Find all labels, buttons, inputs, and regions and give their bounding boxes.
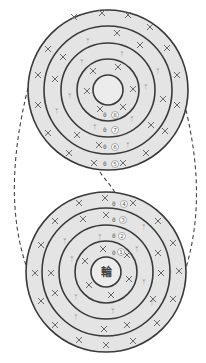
svg-text:7: 7 xyxy=(113,127,117,133)
svg-text:0: 0 xyxy=(112,216,116,223)
svg-text:ᛉ: ᛉ xyxy=(74,293,78,300)
svg-text:0: 0 xyxy=(103,111,107,118)
svg-text:0: 0 xyxy=(103,160,107,167)
svg-text:ᛉ: ᛉ xyxy=(86,37,90,44)
svg-text:ᛉ: ᛉ xyxy=(68,92,72,99)
svg-text:ᛉ: ᛉ xyxy=(111,307,115,314)
svg-text:ᛉ: ᛉ xyxy=(74,313,78,320)
svg-text:3: 3 xyxy=(121,217,125,223)
svg-text:ᛉ: ᛉ xyxy=(70,255,74,262)
svg-text:ᛉ: ᛉ xyxy=(126,141,130,148)
svg-text:8: 8 xyxy=(113,112,117,118)
svg-text:ᛉ: ᛉ xyxy=(93,123,97,130)
svg-text:4: 4 xyxy=(122,201,126,207)
svg-text:ᛉ: ᛉ xyxy=(120,50,124,57)
svg-text:ᛉ: ᛉ xyxy=(98,233,102,240)
crochet-diagram: ᛉ ᛉ ᛉ ᛉ ᛉ ᛉ ᛉ ᛉ ᛉ ᛉ 0 8 0 7 0 6 0 5 xyxy=(0,0,206,363)
svg-text:2: 2 xyxy=(120,233,124,239)
svg-text:ᛉ: ᛉ xyxy=(150,299,154,306)
svg-text:5: 5 xyxy=(113,161,117,167)
svg-text:ᛉ: ᛉ xyxy=(135,245,139,252)
svg-text:ᛉ: ᛉ xyxy=(80,58,84,65)
svg-text:6: 6 xyxy=(113,144,117,150)
center-ring-label: 輪 xyxy=(101,265,113,279)
svg-text:0: 0 xyxy=(112,200,116,207)
svg-text:0: 0 xyxy=(103,126,107,133)
bottom-chart: 輪 xyxy=(26,192,186,352)
svg-text:ᛉ: ᛉ xyxy=(156,67,160,74)
svg-text:ᛉ: ᛉ xyxy=(63,237,67,244)
svg-text:ᛉ: ᛉ xyxy=(130,115,134,122)
svg-text:ᛉ: ᛉ xyxy=(142,223,146,230)
svg-text:ᛉ: ᛉ xyxy=(144,83,148,90)
svg-text:0: 0 xyxy=(103,143,107,150)
svg-text:ᛉ: ᛉ xyxy=(55,107,59,114)
svg-text:ᛉ: ᛉ xyxy=(142,278,146,285)
top-chart: ᛉ ᛉ ᛉ ᛉ ᛉ ᛉ ᛉ ᛉ ᛉ ᛉ 0 8 0 7 0 6 0 5 xyxy=(28,10,188,170)
svg-text:0: 0 xyxy=(112,232,116,239)
svg-text:1: 1 xyxy=(119,249,123,255)
svg-text:0: 0 xyxy=(112,249,116,256)
